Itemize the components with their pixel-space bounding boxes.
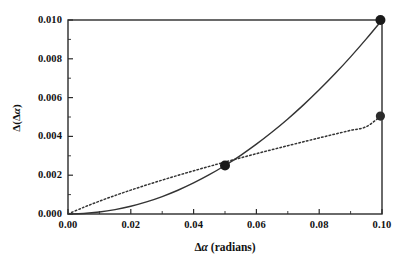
- dotted-endpoint-marker: [376, 111, 385, 120]
- chart-figure: Δα (radians) Δ(Δα) 0.00 0.02 0.04 0.06 0…: [0, 0, 407, 261]
- y-tick-label-1: 0.002: [26, 169, 62, 180]
- x-tick-label-0: 0.00: [54, 219, 82, 230]
- x-tick-label-5: 0.10: [368, 219, 396, 230]
- y-tick-label-2: 0.004: [26, 130, 62, 141]
- x-tick-label-2: 0.04: [180, 219, 208, 230]
- data-point-markers: [220, 15, 385, 171]
- y-tick-label-0: 0.000: [26, 208, 62, 219]
- intersection-marker: [220, 161, 230, 171]
- y-tick-label-3: 0.006: [26, 92, 62, 103]
- plot-frame: [68, 20, 382, 214]
- solid-endpoint-marker: [375, 15, 385, 25]
- y-axis-title: Δ(Δα): [10, 104, 23, 132]
- series-solid-quadratic-curve: [68, 20, 382, 214]
- x-axis-title: Δα (radians): [194, 241, 255, 254]
- x-tick-label-3: 0.06: [242, 219, 270, 230]
- x-tick-label-1: 0.02: [117, 219, 145, 230]
- y-tick-label-5: 0.010: [26, 14, 62, 25]
- y-tick-label-4: 0.008: [26, 53, 62, 64]
- x-tick-label-4: 0.08: [305, 219, 333, 230]
